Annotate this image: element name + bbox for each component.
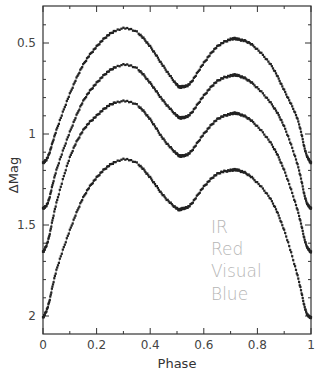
y-tick-label: 0.5 bbox=[17, 36, 36, 50]
legend: IR Red Visual Blue bbox=[211, 217, 262, 304]
x-tick-label: 0 bbox=[39, 338, 47, 352]
y-tick-label: 1.5 bbox=[17, 218, 36, 232]
x-tick-label: 0.6 bbox=[194, 338, 213, 352]
x-tick-label: 0.2 bbox=[87, 338, 106, 352]
series-group bbox=[42, 27, 312, 320]
y-axis-title: ΔMag bbox=[6, 157, 21, 193]
legend-item-blue: Blue bbox=[211, 284, 248, 304]
legend-item-ir: IR bbox=[211, 217, 228, 237]
axis-ticks bbox=[43, 6, 311, 334]
x-tick-label: 0.4 bbox=[141, 338, 160, 352]
plot-border bbox=[43, 6, 311, 334]
fit-curve bbox=[43, 101, 311, 252]
x-tick-label: 0.8 bbox=[248, 338, 267, 352]
y-tick-label: 2 bbox=[28, 309, 36, 323]
x-axis-title: Phase bbox=[158, 356, 197, 371]
fit-curve bbox=[43, 159, 311, 317]
legend-item-red: Red bbox=[211, 239, 243, 259]
x-tick-labels: 00.20.40.60.81 bbox=[39, 338, 315, 352]
series-blue bbox=[42, 158, 312, 320]
plot-frame bbox=[43, 6, 311, 334]
y-tick-label: 1 bbox=[28, 127, 36, 141]
legend-item-visual: Visual bbox=[211, 261, 262, 281]
x-tick-label: 1 bbox=[307, 338, 315, 352]
light-curve-chart: 00.20.40.60.81 0.511.52 Phase ΔMag IR Re… bbox=[0, 0, 317, 372]
series-visual bbox=[42, 99, 312, 253]
